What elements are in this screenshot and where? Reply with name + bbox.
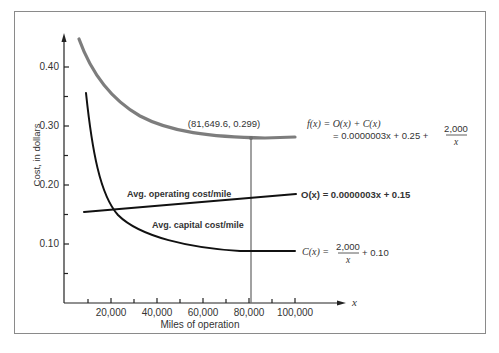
x-tick-label: 80,000 xyxy=(234,307,265,318)
y-tick-label: 0.10 xyxy=(40,238,60,249)
x-tick-label: 40,000 xyxy=(142,307,173,318)
x-tick-label: 20,000 xyxy=(96,307,127,318)
min-point-marker xyxy=(249,136,253,140)
y-tick-label: 0.40 xyxy=(40,61,60,72)
y-tick-label: 0.20 xyxy=(40,179,60,190)
x-axis-symbol: x xyxy=(351,296,357,308)
operating-cost-label: Avg. operating cost/mile xyxy=(127,189,231,199)
f-formula-line2: = 0.0000003x + 0.25 + xyxy=(333,130,429,141)
x-tick-label: 100,000 xyxy=(277,307,314,318)
f-formula-line1: f(x) = O(x) + C(x) xyxy=(307,118,381,130)
y-axis xyxy=(62,33,70,303)
c-formula-suffix: + 0.10 xyxy=(362,247,389,258)
capital-cost-label: Avg. capital cost/mile xyxy=(152,220,244,230)
y-tick-label: 0.30 xyxy=(40,120,60,131)
y-axis-label: Cost, in dollars xyxy=(31,123,42,186)
f-fraction-numerator: 2,000 xyxy=(444,123,468,134)
f-fraction-denominator: x xyxy=(453,137,459,147)
x-axis-label: Miles of operation xyxy=(161,319,240,330)
x-axis xyxy=(64,298,346,306)
x-tick-label: 60,000 xyxy=(188,307,219,318)
c-fraction-denominator: x xyxy=(345,255,351,265)
cost-chart: 0.40 0.30 0.20 0.10 Cost, in dollars 20,… xyxy=(0,0,499,353)
c-formula-prefix: C(x) = xyxy=(302,246,329,258)
o-formula: O(x) = 0.0000003x + 0.15 xyxy=(301,189,411,200)
min-point-label: (81,649.6, 0.299) xyxy=(188,118,260,129)
c-fraction-numerator: 2,000 xyxy=(336,241,360,252)
